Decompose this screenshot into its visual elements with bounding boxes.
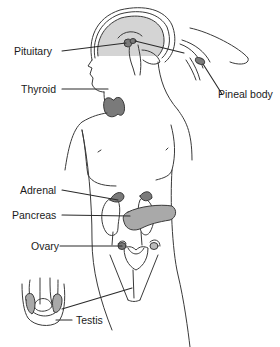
testis-inset <box>22 278 65 325</box>
ovary-right <box>150 243 158 250</box>
label-ovary: Ovary <box>31 240 59 252</box>
label-pancreas: Pancreas <box>12 209 56 221</box>
label-thyroid: Thyroid <box>21 83 56 95</box>
endocrine-diagram: Pituitary Thyroid Pineal body Adrenal Pa… <box>0 0 280 347</box>
head-outline <box>88 8 178 112</box>
adrenal-gland-right <box>140 192 152 201</box>
leader-lines <box>56 41 222 320</box>
testis-left <box>25 293 35 314</box>
label-pineal-body: Pineal body <box>218 88 273 100</box>
label-adrenal: Adrenal <box>20 184 56 196</box>
label-pituitary: Pituitary <box>14 45 52 57</box>
thyroid-gland <box>104 97 125 116</box>
testis-inset-leader <box>62 288 132 309</box>
pancreas <box>123 205 175 230</box>
pineal-inset <box>180 28 248 80</box>
label-testis: Testis <box>76 314 103 326</box>
testis-right <box>53 294 63 312</box>
adrenal-gland-left <box>110 193 124 203</box>
